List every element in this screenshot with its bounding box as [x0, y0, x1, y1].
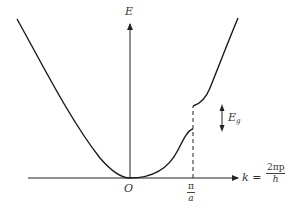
k-axis-label-prefix: k =	[242, 172, 261, 183]
band-diagram: E O π a Eg k = 2πp h	[0, 0, 290, 210]
lower-band-curve	[17, 19, 193, 178]
origin-label: O	[124, 183, 133, 194]
energy-gap-label-sub: g	[236, 117, 240, 125]
pi-over-a-denominator: a	[187, 193, 195, 203]
energy-axis-label: E	[125, 6, 133, 17]
energy-gap-label: Eg	[228, 112, 241, 125]
energy-gap-label-main: E	[228, 111, 236, 124]
pi-over-a-label: π a	[187, 182, 195, 203]
upper-band-curve	[193, 18, 238, 106]
pi-over-a-numerator: π	[187, 182, 195, 193]
energy-gap-arrow-icon	[220, 104, 225, 132]
k-axis-fraction-numerator: 2πp	[266, 163, 285, 174]
k-axis-fraction: 2πp h	[266, 163, 285, 184]
k-axis-fraction-denominator: h	[266, 174, 285, 184]
